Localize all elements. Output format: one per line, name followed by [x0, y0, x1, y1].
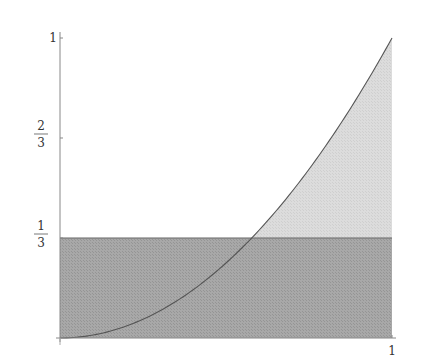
- y-tick-labels: 13231: [34, 31, 63, 250]
- light-region: [252, 38, 392, 238]
- svg-text:1: 1: [388, 344, 396, 358]
- svg-text:3: 3: [37, 236, 45, 250]
- shaded-regions: [60, 38, 392, 338]
- dark-rectangle: [60, 238, 392, 338]
- svg-text:2: 2: [37, 119, 45, 133]
- svg-text:1: 1: [49, 31, 57, 45]
- svg-text:1: 1: [37, 219, 45, 233]
- svg-text:3: 3: [37, 136, 45, 150]
- chart: 13231 1: [0, 0, 429, 361]
